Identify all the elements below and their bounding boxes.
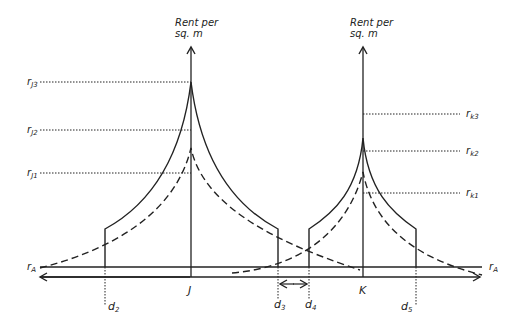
j-dashed-bid-rent-curve [40, 148, 360, 270]
j-axis-title-line2: sq. m [175, 28, 203, 39]
d2-label: d2 [108, 300, 120, 314]
rk1-label: rk1 [466, 187, 479, 200]
rj2-label: rJ2 [27, 124, 38, 137]
j-axis-title-line1: Rent per [175, 17, 219, 28]
bid-rent-diagram: Rent per sq. m Rent per sq. m rJ3 rJ2 rJ… [0, 0, 518, 331]
rk2-label: rk2 [466, 145, 479, 158]
centre-k-label: K [359, 284, 367, 297]
d5-label: d5 [401, 300, 413, 314]
centre-j-label: J [186, 284, 191, 297]
rk3-label: rk3 [466, 108, 479, 121]
k-axis-title-line2: sq. m [350, 28, 378, 39]
ra-right-label: rA [489, 261, 498, 274]
rj3-label: rJ3 [27, 76, 38, 89]
d4-label: d4 [305, 298, 316, 312]
ra-left-label: rA [27, 261, 36, 274]
d3-label: d3 [274, 298, 285, 312]
rj1-label: rJ1 [27, 167, 38, 180]
k-axis-title-line1: Rent per [350, 17, 394, 28]
